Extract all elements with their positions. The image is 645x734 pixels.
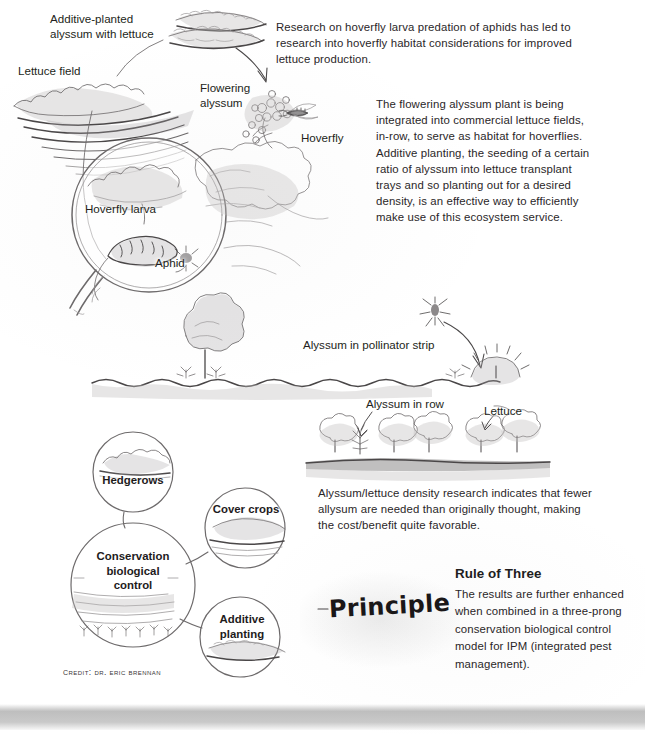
arrow-tray-to-alyssum xyxy=(236,48,267,82)
credit-line: Credit: Dr. Eric Brennan xyxy=(63,666,161,677)
label-alyssum-in-row: Alyssum in row xyxy=(366,397,444,412)
tree-sketch xyxy=(184,293,245,378)
label-lettuce: Lettuce xyxy=(484,404,522,419)
label-alyssum-pollinator-strip: Alyssum in pollinator strip xyxy=(303,338,434,353)
rule-of-three-title: Rule of Three xyxy=(455,566,541,581)
rule-of-three-body: The results are further enhanced when co… xyxy=(455,586,640,673)
paragraph-research: Research on hoverfly larva predation of … xyxy=(276,19,576,68)
alyssum-strip-plant-sketch xyxy=(446,344,529,385)
principle-tick xyxy=(316,604,336,614)
label-flowering-alyssum: Flowering alyssum xyxy=(200,81,290,110)
label-additive-planted: Additive-planted alyssum with lettuce xyxy=(50,12,190,41)
leader-additive-to-field xyxy=(117,40,163,76)
label-aphid: Aphid xyxy=(155,256,185,271)
label-hoverfly: Hoverfly xyxy=(301,131,344,146)
label-lettuce-field: Lettuce field xyxy=(18,64,81,79)
circle-label-conservation: Conservation biological control xyxy=(73,549,193,593)
circle-label-hedgerows: Hedgerows xyxy=(83,473,183,488)
label-hoverfly-larva: Hoverfly larva xyxy=(85,202,156,217)
hedgerows-circle xyxy=(93,432,173,512)
hoverfly-flying-sketch xyxy=(420,297,450,326)
magnifier-sketch xyxy=(70,138,226,315)
paragraph-flowering: The flowering alyssum plant is being int… xyxy=(376,96,596,226)
arrow-alyssum-in-row xyxy=(361,412,372,430)
circle-label-cover-crops: Cover crops xyxy=(198,502,294,517)
arrow-hoverfly-to-strip xyxy=(444,322,484,368)
cover-crops-circle xyxy=(205,488,286,568)
paragraph-density: Alyssum/lettuce density research indicat… xyxy=(318,485,596,534)
infographic-canvas: Additive-planted alyssum with lettuce Le… xyxy=(0,0,645,734)
circle-label-additive-planting: Additive planting xyxy=(194,612,290,641)
